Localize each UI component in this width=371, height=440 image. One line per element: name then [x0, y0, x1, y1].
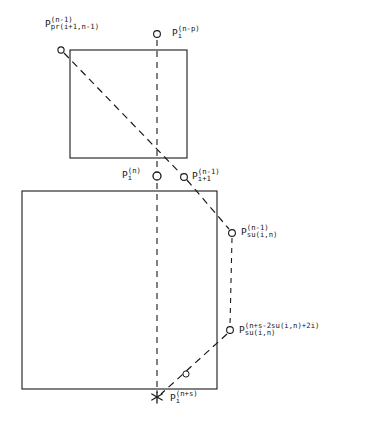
label-p-su-upper-sub: su(i,n)	[247, 231, 278, 238]
label-p-pr-sub: pr(i+1,n-1)	[51, 23, 99, 30]
diagram-canvas: P(n-1)pr(i+1,n-1) P(n-p)i P(n)i P(n-1)i+…	[0, 0, 371, 440]
label-p-su-lower-sub: su(i,n)	[245, 329, 320, 336]
label-p-su-upper: P(n-1)su(i,n)	[241, 224, 278, 239]
diagonal-dashed-to-su	[187, 180, 229, 229]
diagram-svg	[0, 0, 371, 440]
label-p-i-n-minus-p: P(n-p)i	[172, 25, 200, 40]
label-p-i-n-minus-p-sub: i	[178, 32, 200, 39]
p-i-plus-1-marker	[181, 174, 188, 181]
vertical-dashed-right	[230, 238, 232, 326]
p-mid-small-marker	[183, 371, 189, 377]
label-p-i-n-sub: i	[128, 174, 141, 181]
p-su-lower-marker	[227, 327, 234, 334]
label-p-i-n: P(n)i	[122, 167, 141, 182]
p-i-n-plus-s-marker	[152, 391, 162, 403]
upper-box	[70, 50, 187, 158]
label-p-i-plus-1-sub: i+1	[198, 175, 220, 182]
lower-box	[22, 191, 217, 389]
p-su-upper-marker	[229, 230, 236, 237]
p-i-n-marker	[153, 172, 161, 180]
p-i-n-minus-p-marker	[154, 31, 161, 38]
label-p-i-n-plus-s-sub: i	[176, 397, 198, 404]
p-pr-node-marker	[58, 47, 64, 53]
label-p-i-n-plus-s: P(n+s)i	[170, 390, 198, 405]
label-p-i-plus-1: P(n-1)i+1	[192, 168, 220, 183]
diagonal-dashed-upper	[64, 53, 181, 174]
label-p-su-lower: P(n+s-2su(i,n)+2i)su(i,n)	[239, 322, 319, 337]
label-p-pr: P(n-1)pr(i+1,n-1)	[45, 16, 99, 31]
